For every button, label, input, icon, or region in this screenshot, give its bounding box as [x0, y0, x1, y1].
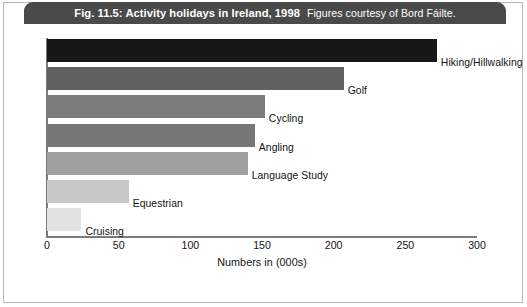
x-tick-label: 150 [253, 239, 271, 251]
x-tick-label: 250 [396, 239, 414, 251]
x-axis-title: Numbers in (000s) [47, 256, 477, 268]
bar-label: Golf [344, 85, 367, 96]
bar-label: Hiking/Hillwalking [437, 57, 523, 68]
x-tick-label: 200 [325, 239, 343, 251]
bar-label: Angling [255, 142, 294, 153]
bar [47, 67, 344, 90]
bar [47, 95, 265, 118]
page-title: Fig. 11.5: Activity holidays in Ireland,… [74, 7, 300, 19]
bar [47, 39, 437, 62]
bar-label: Cycling [265, 113, 303, 124]
figure-title-bar: Fig. 11.5: Activity holidays in Ireland,… [24, 2, 506, 24]
chart-plot-area: Hiking/HillwalkingGolfCyclingAnglingLang… [47, 38, 477, 236]
bar [47, 208, 81, 231]
bar-label: Language Study [248, 170, 328, 181]
bar [47, 152, 248, 175]
bar [47, 180, 129, 203]
figure-container: Fig. 11.5: Activity holidays in Ireland,… [0, 0, 527, 307]
bar [47, 124, 255, 147]
x-tick-label: 100 [181, 239, 199, 251]
figure-credit: Figures courtesy of Bord Fáilte. [307, 7, 456, 19]
bar-label: Equestrian [129, 198, 183, 209]
x-tick-label: 300 [468, 239, 486, 251]
x-tick-label: 50 [113, 239, 125, 251]
bar-label: Cruising [81, 226, 124, 237]
x-tick-label: 0 [44, 239, 50, 251]
